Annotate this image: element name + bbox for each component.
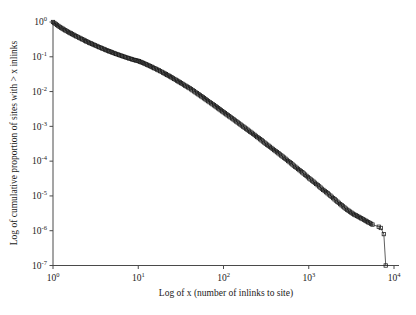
y-tick-label: 10-3 [32,120,47,132]
x-tick-label: 100 [47,271,60,283]
x-tick-label: 103 [302,271,315,283]
y-tick-label: 10-2 [32,85,47,97]
data-series-markers [51,20,387,267]
axis-lines [53,20,399,266]
y-tick-label: 10-5 [32,189,47,201]
y-tick-label: 10-4 [32,154,48,166]
x-axis-ticks [53,266,394,270]
y-tick-label: 10-1 [32,50,47,62]
y-axis-ticks [50,22,54,266]
y-tick-label: 10-6 [32,224,48,236]
x-axis-title: Log of x (number of inlinks to site) [159,288,293,299]
x-tick-label: 104 [388,271,402,283]
log-log-plot: 10010-110-210-310-410-510-610-7 10010110… [0,0,416,315]
figure-container: 10010-110-210-310-410-510-610-7 10010110… [0,0,416,315]
y-tick-label: 10-7 [32,259,48,271]
data-series-line [53,22,386,266]
x-axis-tick-labels: 100101102103104 [47,271,402,283]
x-tick-label: 102 [217,271,230,283]
y-axis-tick-labels: 10010-110-210-310-410-510-610-7 [32,15,48,271]
y-tick-label: 100 [34,15,47,27]
x-tick-label: 101 [132,271,145,283]
y-axis-title: Log of cumulative proportion of sites wi… [9,40,19,245]
